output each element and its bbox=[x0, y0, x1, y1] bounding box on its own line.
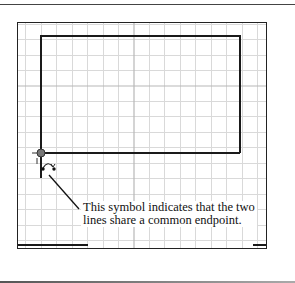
caption: This symbol indicates that the two lines… bbox=[81, 201, 257, 227]
sketch-lines bbox=[41, 36, 240, 178]
top-rule bbox=[0, 4, 295, 5]
caption-line-2: lines share a common endpoint. bbox=[83, 214, 255, 227]
leader-line bbox=[49, 175, 79, 209]
coincident-constraint-icon bbox=[41, 164, 55, 171]
endpoint-marker bbox=[32, 149, 45, 164]
sketch-canvas: This symbol indicates that the two lines… bbox=[17, 22, 267, 249]
